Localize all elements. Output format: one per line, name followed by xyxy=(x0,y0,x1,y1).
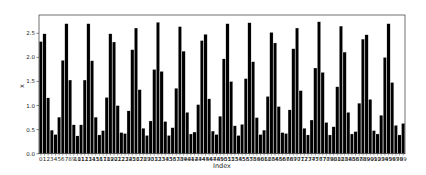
bar xyxy=(98,135,101,154)
bar xyxy=(200,41,203,154)
bar xyxy=(211,131,214,154)
bar xyxy=(281,133,284,154)
bar xyxy=(248,23,251,154)
bar xyxy=(50,130,53,154)
x-axis-ticks: 0123456789101112131415161718192021222324… xyxy=(39,154,407,163)
bar xyxy=(116,106,119,154)
bar xyxy=(193,132,196,154)
y-tick-label: 1.0 xyxy=(26,103,35,109)
bar xyxy=(288,110,291,154)
bar xyxy=(197,105,200,154)
y-axis-label: x xyxy=(18,84,26,88)
bar xyxy=(394,125,397,153)
bar xyxy=(208,99,211,154)
bar-chart: 0.00.51.01.52.02.5 012345678910111213141… xyxy=(0,0,426,175)
bar xyxy=(90,61,93,154)
bar xyxy=(204,34,207,153)
y-tick-label: 2.5 xyxy=(26,30,35,36)
bar xyxy=(175,88,178,154)
x-axis-label: Index xyxy=(213,162,231,170)
bar xyxy=(259,134,262,153)
bar xyxy=(295,28,298,154)
y-tick-label: 2.0 xyxy=(26,54,35,60)
y-axis-ticks: 0.00.51.01.52.02.5 xyxy=(26,30,39,156)
bar xyxy=(332,127,335,154)
bar xyxy=(350,134,353,154)
bar xyxy=(83,80,86,154)
bar xyxy=(171,128,174,154)
bar xyxy=(398,135,401,154)
bar xyxy=(339,26,342,154)
bar xyxy=(164,121,167,153)
x-tick-label: 99 xyxy=(400,156,407,162)
bar xyxy=(284,133,287,153)
bar xyxy=(222,59,225,154)
bar xyxy=(354,132,357,154)
bar xyxy=(43,34,46,154)
bar xyxy=(94,117,97,154)
bar xyxy=(178,27,181,154)
bar xyxy=(76,136,79,154)
bar xyxy=(244,79,247,154)
bar xyxy=(321,72,324,153)
bar xyxy=(145,135,148,153)
bar xyxy=(314,68,317,154)
bar xyxy=(142,128,145,154)
bar xyxy=(380,115,383,154)
bar xyxy=(79,125,82,154)
bar xyxy=(310,120,313,154)
bar xyxy=(233,126,236,154)
bar xyxy=(156,22,159,153)
bar xyxy=(347,112,350,153)
y-tick-label: 0.0 xyxy=(26,151,35,157)
bar xyxy=(361,39,364,154)
bar xyxy=(328,135,331,154)
bar xyxy=(160,71,163,153)
bar xyxy=(101,131,104,154)
bar xyxy=(68,80,71,154)
bar xyxy=(120,133,123,154)
bar xyxy=(186,112,189,153)
bar xyxy=(325,122,328,153)
bar xyxy=(229,81,232,153)
bar xyxy=(39,41,42,153)
bar xyxy=(303,128,306,154)
bar xyxy=(391,82,394,153)
bar xyxy=(87,24,90,154)
bar xyxy=(270,32,273,153)
bar xyxy=(376,134,379,154)
bar xyxy=(54,134,57,153)
bar xyxy=(387,24,390,154)
bar xyxy=(277,107,280,154)
bar xyxy=(112,42,115,154)
bar xyxy=(336,87,339,154)
bar xyxy=(372,131,375,154)
bar xyxy=(273,43,276,154)
bar xyxy=(127,111,130,154)
bar xyxy=(255,118,258,154)
bar xyxy=(218,116,221,154)
bar xyxy=(358,103,361,154)
bar xyxy=(317,22,320,154)
bar xyxy=(240,124,243,153)
y-tick-label: 0.5 xyxy=(26,127,35,133)
bar xyxy=(306,135,309,154)
bar xyxy=(61,60,64,153)
bar xyxy=(369,99,372,153)
bar xyxy=(131,50,134,154)
bar xyxy=(383,57,386,153)
bar xyxy=(57,117,60,154)
bar xyxy=(167,135,170,153)
bar xyxy=(292,49,295,154)
bar xyxy=(251,62,254,154)
bar xyxy=(189,134,192,154)
bar xyxy=(226,24,229,154)
bar xyxy=(149,121,152,154)
bar xyxy=(123,133,126,153)
bar xyxy=(299,91,302,154)
bar xyxy=(105,97,108,153)
bar xyxy=(262,130,265,154)
bar xyxy=(365,35,368,154)
bar xyxy=(109,34,112,154)
bar xyxy=(138,90,141,154)
